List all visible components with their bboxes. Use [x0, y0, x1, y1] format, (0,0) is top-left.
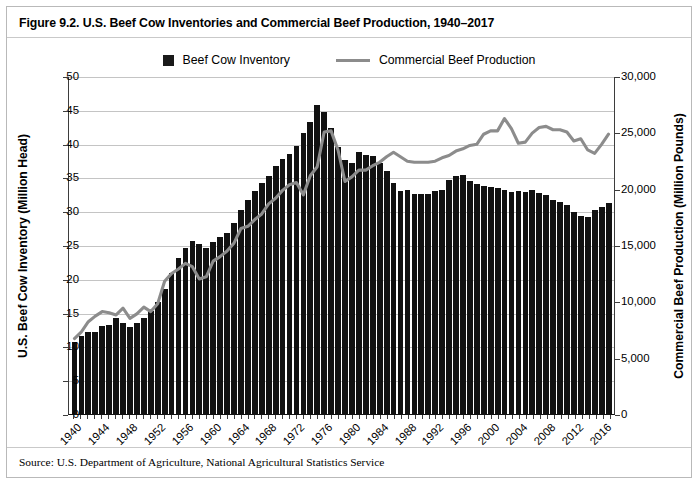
x-axis-tickmark [359, 415, 360, 419]
y-axis-left-tickmark [63, 314, 68, 315]
x-axis-tickmark [227, 415, 228, 419]
bar-1973 [301, 133, 307, 414]
x-axis-tickmark [150, 415, 151, 419]
x-axis-tickmark [554, 415, 555, 419]
y-axis-right-tick-10,000: 10,000 [621, 296, 677, 307]
x-axis-tickmark [164, 415, 165, 419]
bar-1967 [259, 183, 265, 414]
bar-1949 [134, 323, 140, 414]
x-axis-tickmark [435, 415, 436, 419]
x-axis-tickmark [610, 415, 611, 419]
bar-1959 [203, 248, 209, 414]
x-axis-tickmark [101, 415, 102, 419]
x-axis-tickmark [345, 415, 346, 419]
y-axis-left-tickmark [63, 212, 68, 213]
x-axis-tickmark [387, 415, 388, 419]
bar-2011 [564, 205, 570, 414]
x-axis-tickmark [408, 415, 409, 419]
y-axis-left-tickmark [63, 111, 68, 112]
x-axis-tickmark [331, 415, 332, 419]
y-axis-right-tickmark [615, 246, 620, 247]
y-axis-left-tickmark [63, 77, 68, 78]
y-axis-left-tickmark [63, 280, 68, 281]
bar-1974 [307, 122, 313, 414]
bar-1987 [398, 191, 404, 414]
x-axis-tickmark [178, 415, 179, 419]
bar-1998 [474, 184, 480, 414]
x-axis-tickmark [561, 415, 562, 419]
x-axis-tickmark [533, 415, 534, 419]
x-axis-tickmark [234, 415, 235, 419]
x-axis-tickmark [463, 415, 464, 419]
bar-1948 [127, 327, 133, 414]
bar-1966 [252, 191, 258, 414]
x-axis-tickmark [268, 415, 269, 419]
bar-2000 [488, 187, 494, 414]
x-axis-tickmark [526, 415, 527, 419]
bar-1983 [370, 156, 376, 414]
bar-1952 [155, 302, 161, 414]
bar-1981 [356, 152, 362, 414]
x-axis-tickmark [415, 415, 416, 419]
y-axis-left-title-text: U.S. Beef Cow Inventory (Million Head) [16, 134, 30, 358]
x-axis-tickmark [589, 415, 590, 419]
y-axis-right-tick-0: 0 [621, 409, 677, 420]
bar-1978 [335, 147, 341, 414]
x-axis-tickmark [352, 415, 353, 419]
y-axis-right-tickmark [615, 359, 620, 360]
x-axis-tickmark [442, 415, 443, 419]
x-axis-tick-2004: 2004 [494, 421, 529, 456]
x-axis-tickmark [380, 415, 381, 419]
y-axis-left-tickmark [63, 381, 68, 382]
legend-square-icon [163, 55, 174, 66]
x-axis-tickmark [136, 415, 137, 419]
y-axis-left-tickmark [63, 347, 68, 348]
y-axis-right-tick-15,000: 15,000 [621, 240, 677, 251]
x-axis-tickmark [282, 415, 283, 419]
bar-1964 [238, 210, 244, 414]
y-axis-left-title: U.S. Beef Cow Inventory (Million Head) [13, 77, 33, 415]
bar-2016 [599, 207, 605, 414]
bar-1979 [342, 160, 348, 414]
x-axis-tickmark [429, 415, 430, 419]
x-axis-tickmark [477, 415, 478, 419]
y-axis-left-tick-5: 5 [45, 375, 79, 386]
figure-title: Figure 9.2. U.S. Beef Cow Inventories an… [19, 16, 494, 30]
x-axis-tickmark [289, 415, 290, 419]
bar-1945 [106, 325, 112, 414]
x-axis-tickmark [324, 415, 325, 419]
x-axis-tickmark [568, 415, 569, 419]
bar-1976 [321, 112, 327, 414]
x-axis-tickmark [108, 415, 109, 419]
y-axis-left-tickmark [63, 145, 68, 146]
x-axis-tickmark [582, 415, 583, 419]
bar-1946 [113, 318, 119, 414]
bar-1941 [79, 336, 85, 414]
bar-2013 [578, 216, 584, 414]
bar-2014 [585, 217, 591, 414]
y-axis-left-tick-40: 40 [45, 139, 79, 150]
bar-1957 [190, 241, 196, 414]
y-axis-left-tickmark [63, 246, 68, 247]
bar-1986 [391, 183, 397, 414]
bar-2007 [536, 193, 542, 414]
x-axis-tickmark [220, 415, 221, 419]
bar-1984 [377, 163, 383, 414]
x-axis-tickmark [87, 415, 88, 419]
y-axis-left-tick-35: 35 [45, 172, 79, 183]
bar-1947 [120, 323, 126, 414]
x-axis-tickmark [484, 415, 485, 419]
bar-1977 [328, 128, 334, 414]
y-axis-right-tick-20,000: 20,000 [621, 184, 677, 195]
bar-2003 [509, 192, 515, 414]
x-axis-tickmark [73, 415, 74, 419]
x-axis-tickmark [317, 415, 318, 419]
legend-label-production: Commercial Beef Production [379, 53, 536, 67]
bar-2009 [550, 200, 556, 414]
x-axis-tickmark [498, 415, 499, 419]
x-axis-tickmark [519, 415, 520, 419]
bar-1982 [363, 155, 369, 414]
x-axis-tickmark [254, 415, 255, 419]
x-axis-tickmark [171, 415, 172, 419]
y-axis-left-tick-45: 45 [45, 105, 79, 116]
